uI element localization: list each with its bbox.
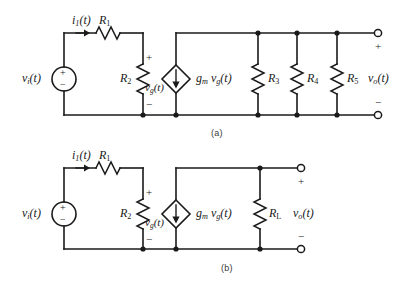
source-minus-a: − — [60, 80, 66, 90]
caption-a: (a) — [211, 128, 223, 138]
dependent-source-label-a: gm vg(t) — [196, 72, 232, 86]
resistor-label-r2-b: R2 — [120, 207, 131, 221]
output-label-a: vo(t) — [368, 72, 389, 86]
output-terminal-negative-b — [297, 245, 304, 252]
circuit-figure — [0, 0, 409, 289]
resistor-label-r1-b: R1 — [99, 149, 110, 163]
output-minus-b: − — [298, 231, 304, 242]
source-label-b: vi(t) — [22, 207, 41, 221]
source-plus-a: + — [60, 68, 66, 78]
gate-voltage-plus-b: + — [146, 187, 152, 198]
current-label-a: i1(t) — [72, 14, 91, 28]
gate-voltage-label-a: vg(t) — [145, 82, 164, 95]
resistor-label-r2-a: R2 — [120, 72, 131, 86]
source-minus-b: − — [60, 215, 66, 225]
source-plus-b: + — [60, 203, 66, 213]
source-label-a: vi(t) — [22, 72, 41, 86]
dependent-source-label-b: gm vg(t) — [196, 207, 232, 221]
resistor-label-rl-b: RL — [269, 207, 281, 221]
output-plus-a: + — [375, 41, 381, 52]
figure-background — [0, 0, 409, 289]
resistor-label-r5-a: R5 — [347, 72, 358, 86]
caption-b: (b) — [221, 263, 233, 273]
resistor-label-r4-a: R4 — [307, 72, 318, 86]
gate-voltage-plus-a: + — [146, 52, 152, 63]
output-terminal-positive-b — [297, 164, 304, 171]
output-terminal-positive-a — [374, 29, 381, 36]
gate-voltage-label-b: vg(t) — [145, 217, 164, 230]
output-plus-b: + — [298, 176, 304, 187]
output-terminal-negative-a — [374, 111, 381, 118]
current-label-b: i1(t) — [72, 149, 91, 163]
output-label-b: vo(t) — [293, 207, 314, 221]
resistor-label-r3-a: R3 — [268, 72, 279, 86]
gate-voltage-minus-a: − — [146, 99, 152, 110]
resistor-label-r1-a: R1 — [99, 14, 110, 28]
output-minus-a: − — [375, 97, 381, 108]
gate-voltage-minus-b: − — [146, 234, 152, 245]
